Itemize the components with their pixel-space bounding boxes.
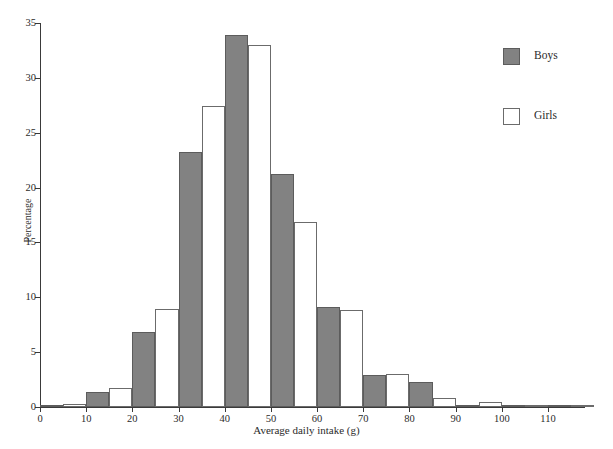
x-axis-tick: [225, 407, 226, 412]
bar-girls-10-20: [109, 388, 132, 407]
bar-boys-20-30: [132, 332, 155, 407]
x-axis-tick-label: 50: [266, 414, 277, 425]
bar-boys-10-20: [86, 392, 109, 407]
bar-boys-110-120: [548, 405, 571, 407]
bar-boys-50-60: [271, 174, 294, 407]
x-axis-tick-label: 20: [127, 414, 138, 425]
bar-girls-100-110: [525, 405, 548, 407]
bar-boys-100-110: [502, 405, 525, 407]
x-axis-title: Average daily intake (g): [0, 424, 613, 436]
y-axis-tick-label: 25: [26, 127, 37, 138]
legend-label: Boys: [534, 49, 558, 61]
x-axis-tick: [317, 407, 318, 412]
x-axis-tick-label: 110: [540, 414, 555, 425]
x-axis-tick-label: 90: [450, 414, 461, 425]
legend-label: Girls: [534, 109, 557, 121]
bar-girls-40-50: [248, 45, 271, 407]
x-axis-tick: [456, 407, 457, 412]
legend-swatch-girls-icon: [503, 108, 520, 125]
x-axis-tick: [409, 407, 410, 412]
x-axis-tick-label: 60: [312, 414, 323, 425]
y-axis-tick-label: 20: [26, 182, 37, 193]
x-axis-tick-label: 30: [173, 414, 184, 425]
x-axis-tick: [363, 407, 364, 412]
y-axis-tick-label: 5: [31, 347, 36, 358]
x-axis-tick-label: 10: [81, 414, 92, 425]
y-axis-tick-label: 10: [26, 292, 37, 303]
x-axis-tick-label: 70: [358, 414, 369, 425]
x-axis-tick-label: 40: [219, 414, 230, 425]
bar-boys-40-50: [225, 35, 248, 407]
bar-girls-60-70: [340, 310, 363, 407]
y-axis-tick-label: 35: [26, 18, 37, 29]
y-axis-title: Percentage: [22, 199, 33, 243]
page-top-margin: [0, 0, 613, 10]
bar-girls-80-90: [433, 398, 456, 407]
plot-area: [40, 23, 585, 407]
bar-boys-60-70: [317, 307, 340, 407]
bar-girls-50-60: [294, 222, 317, 407]
y-axis-tick-label: 30: [26, 73, 37, 84]
x-axis-tick: [502, 407, 503, 412]
x-axis-tick: [132, 407, 133, 412]
x-axis-tick: [86, 407, 87, 412]
chart-figure: 05101520253035 0102030405060708090100110…: [0, 0, 613, 449]
legend-swatch-boys-icon: [503, 48, 520, 65]
bar-girls-20-30: [155, 309, 178, 407]
bar-girls-30-40: [202, 106, 225, 407]
x-axis-tick-label: 80: [404, 414, 415, 425]
x-axis-tick: [179, 407, 180, 412]
bar-boys-0-10: [40, 405, 63, 407]
bar-boys-70-80: [363, 375, 386, 407]
x-axis-tick-label: 0: [37, 414, 42, 425]
bar-girls-90-100: [479, 402, 502, 407]
x-axis-line: 0102030405060708090100110: [40, 407, 585, 408]
y-axis-tick-label: 0: [31, 402, 36, 413]
bar-girls-70-80: [386, 374, 409, 407]
x-axis-tick: [271, 407, 272, 412]
x-axis-tick-label: 100: [494, 414, 510, 425]
bar-boys-30-40: [179, 152, 202, 407]
x-axis-tick: [40, 407, 41, 412]
bar-boys-90-100: [456, 405, 479, 407]
bar-boys-80-90: [409, 382, 432, 407]
bar-girls-110-120: [571, 405, 594, 407]
x-axis-tick: [548, 407, 549, 412]
bar-girls-0-10: [63, 404, 86, 407]
